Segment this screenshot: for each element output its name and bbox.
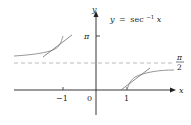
x-tick-label-neg1: −1 <box>56 94 68 103</box>
x-axis-label: x <box>179 86 184 95</box>
x-axis-arrow-icon <box>170 88 176 93</box>
asymptote-label-numerator: π <box>176 53 183 62</box>
curve-left-branch <box>14 36 63 56</box>
y-axis-label: y <box>91 5 97 14</box>
asymptote-label-denominator: 2 <box>177 63 182 72</box>
tangent-left <box>43 35 72 57</box>
equation-label: y = sec −1 x <box>109 12 162 24</box>
x-tick-label-1: 1 <box>124 94 129 103</box>
tangent-right <box>121 68 150 90</box>
y-tick-label-pi: π <box>83 32 90 41</box>
origin-label: 0 <box>87 94 92 103</box>
inverse-secant-graph: y x y = sec −1 x π π 2 −1 0 1 <box>0 0 191 125</box>
